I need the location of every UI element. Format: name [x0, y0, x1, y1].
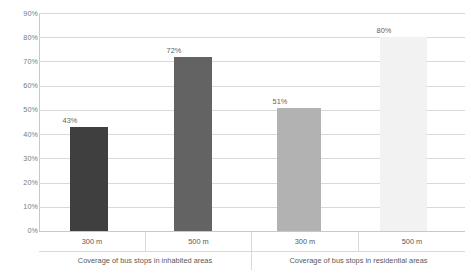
bar-inhabited-500m[interactable] — [174, 57, 212, 231]
category-label-residential-300m: 300 m — [252, 232, 358, 251]
y-axis-tick-90: 90% — [4, 10, 38, 17]
data-label-residential-300m: 51% — [240, 98, 320, 105]
y-axis-tick-0: 0% — [4, 227, 38, 234]
y-axis-tick-40: 40% — [4, 131, 38, 138]
group-axis: Coverage of bus stops in inhabited areas… — [39, 251, 465, 270]
y-axis-tick-60: 60% — [4, 82, 38, 89]
category-label-inhabited-500m: 500 m — [146, 232, 251, 251]
category-label-inhabited-300m: 300 m — [39, 232, 145, 251]
data-label-inhabited-500m: 72% — [134, 47, 214, 54]
category-axis: 300 m 500 m 300 m 500 m — [39, 232, 465, 252]
group-label-inhabited-areas: Coverage of bus stops in inhabited areas — [39, 251, 251, 270]
category-label-residential-500m: 500 m — [359, 232, 465, 251]
y-axis-tick-30: 30% — [4, 155, 38, 162]
bar-chart: 90% 80% 70% 60% 50% 40% 30% 20% 10% 0% 4… — [0, 0, 471, 279]
bar-residential-300m[interactable] — [277, 108, 321, 232]
y-axis-tick-50: 50% — [4, 106, 38, 113]
bar-residential-500m[interactable] — [380, 37, 427, 231]
group-label-residential-areas: Coverage of bus stops in residential are… — [252, 251, 465, 270]
y-axis-tick-70: 70% — [4, 58, 38, 65]
data-label-inhabited-300m: 43% — [30, 117, 110, 124]
y-axis-tick-10: 10% — [4, 203, 38, 210]
gridline-90 — [39, 13, 465, 14]
data-label-residential-500m: 80% — [344, 27, 424, 34]
bar-inhabited-300m[interactable] — [70, 127, 108, 231]
y-axis-tick-80: 80% — [4, 34, 38, 41]
y-axis-tick-20: 20% — [4, 179, 38, 186]
